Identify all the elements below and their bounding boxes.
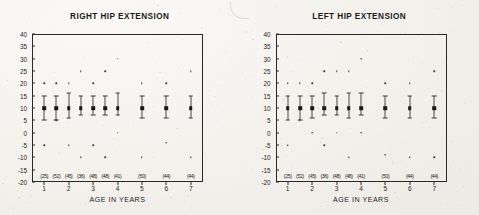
y-axis-tick-label: 10 [248, 105, 271, 112]
median-marker [384, 106, 388, 110]
error-bar-lower-cap [188, 117, 193, 118]
y-axis-tick-label: 25 [4, 68, 27, 75]
error-bar-lower-cap [79, 115, 84, 116]
median-marker [67, 106, 71, 110]
outlier-point [166, 83, 168, 85]
median-marker [408, 106, 412, 110]
x-axis-tick-mark [117, 182, 118, 185]
y-axis-tick-label: 15 [4, 92, 27, 99]
y-axis-tick-label: 0 [4, 129, 27, 136]
outlier-point [56, 120, 58, 122]
chart-panel-right-hip-extension: RIGHT HIP EXTENSION4035302520151050-5-10… [0, 0, 240, 215]
outlier-point [68, 83, 70, 85]
x-axis-tick-mark [361, 182, 362, 185]
outlier-point [166, 142, 168, 144]
y-axis-tick-label: 20 [248, 80, 271, 87]
y-axis-tick-label: 15 [248, 92, 271, 99]
error-bar-upper-cap [54, 95, 59, 96]
error-bar-whisker [361, 93, 362, 115]
error-bar-lower-cap [310, 117, 315, 118]
outlier-point [105, 70, 107, 72]
x-axis-tick-label: 7 [189, 185, 193, 192]
plot-area [276, 34, 447, 182]
error-bar-lower-cap [140, 117, 145, 118]
median-marker [79, 106, 83, 110]
outlier-point [287, 83, 289, 85]
error-bar-upper-cap [91, 95, 96, 96]
error-bar-upper-cap [115, 93, 120, 94]
outlier-point [360, 132, 362, 134]
error-bar-lower-cap [322, 115, 327, 116]
plot-area [32, 34, 203, 182]
median-marker [140, 106, 144, 110]
outlier-point [360, 58, 362, 60]
error-bar-lower-cap [408, 117, 413, 118]
y-axis-tick-label: 30 [4, 55, 27, 62]
outlier-point [43, 144, 45, 146]
error-bar-upper-cap [359, 93, 364, 94]
outlier-point [190, 157, 192, 159]
error-bar-lower-cap [432, 117, 437, 118]
median-marker [347, 106, 351, 110]
error-bar-lower-cap [91, 115, 96, 116]
x-axis-tick-mark [336, 182, 337, 185]
panel-title: RIGHT HIP EXTENSION [0, 12, 240, 21]
error-bar-upper-cap [164, 95, 169, 96]
x-axis-tick-label: 1 [286, 185, 290, 192]
x-axis-tick-mark [409, 182, 410, 185]
x-axis-tick-mark [141, 182, 142, 185]
outlier-point [348, 157, 350, 159]
y-axis-tick-label: -15 [248, 166, 271, 173]
x-axis-tick-label: 5 [140, 185, 144, 192]
x-axis-tick-mark [44, 182, 45, 185]
x-axis-tick-label: 5 [384, 185, 388, 192]
error-bar-upper-cap [103, 95, 108, 96]
x-axis-tick-mark [434, 182, 435, 185]
x-axis-tick-label: 4 [359, 185, 363, 192]
error-bar-upper-cap [140, 95, 145, 96]
outlier-point [117, 58, 119, 60]
error-bar-lower-cap [103, 115, 108, 116]
outlier-point [56, 83, 58, 85]
x-axis-tick-label: 6 [408, 185, 412, 192]
error-bar-lower-cap [334, 115, 339, 116]
y-axis-tick-label: -5 [248, 142, 271, 149]
error-bar-upper-cap [346, 93, 351, 94]
error-bar-whisker [324, 93, 325, 115]
outlier-point [92, 144, 94, 146]
y-axis-tick-label: -10 [248, 154, 271, 161]
error-bar-lower-cap [359, 115, 364, 116]
outlier-point [311, 132, 313, 134]
y-axis-tick-label: 35 [248, 43, 271, 50]
error-bar-lower-cap [383, 117, 388, 118]
outlier-point [311, 83, 313, 85]
y-axis-tick-label: 35 [4, 43, 27, 50]
outlier-point [385, 154, 387, 156]
y-axis-tick-label: 40 [248, 31, 271, 38]
outlier-point [348, 70, 350, 72]
outlier-point [385, 83, 387, 85]
x-axis-tick-mark [166, 182, 167, 185]
error-bar-upper-cap [432, 95, 437, 96]
error-bar-lower-cap [66, 117, 71, 118]
x-axis-tick-mark [190, 182, 191, 185]
x-axis-tick-mark [312, 182, 313, 185]
panel-title: LEFT HIP EXTENSION [240, 12, 479, 21]
y-axis-tick-label: 30 [248, 55, 271, 62]
outlier-point [324, 144, 326, 146]
error-bar-lower-cap [285, 120, 290, 121]
outlier-point [434, 157, 436, 159]
median-marker [323, 106, 327, 110]
error-bar-lower-cap [346, 117, 351, 118]
median-marker [298, 106, 302, 110]
outlier-point [336, 70, 338, 72]
median-marker [116, 106, 120, 110]
outlier-point [92, 83, 94, 85]
median-marker [189, 106, 193, 110]
median-marker [286, 106, 290, 110]
x-axis-tick-label: 2 [310, 185, 314, 192]
outlier-point [141, 157, 143, 159]
error-bar-lower-cap [42, 120, 47, 121]
x-axis-title: AGE IN YEARS [276, 196, 447, 204]
outlier-point [287, 144, 289, 146]
